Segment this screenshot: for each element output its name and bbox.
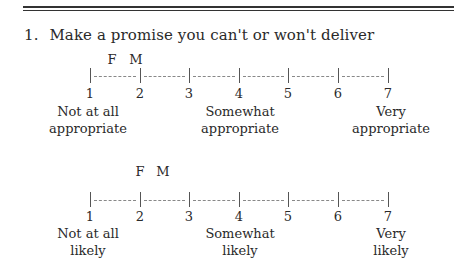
tick-1 [90,192,91,207]
point-2: 2 [136,209,144,224]
segment [193,200,235,201]
tick-6 [338,192,339,207]
segment [342,200,384,201]
anchor-mid: Somewhat likely [205,225,274,259]
tick-2 [140,192,141,207]
anchor-line: likely [373,242,408,259]
point-4: 4 [235,209,243,224]
tick-7 [388,192,389,207]
point-6: 6 [334,209,342,224]
segment [144,200,185,201]
anchor-high: Very likely [373,225,408,259]
marker-f: F [135,164,144,179]
segment [292,200,334,201]
anchor-line: likely [57,242,119,259]
tick-4 [239,192,240,207]
anchor-low: Not at all likely [57,225,119,259]
point-7: 7 [384,209,392,224]
anchor-line: Somewhat [205,225,274,242]
anchor-line: likely [205,242,274,259]
segment [243,200,284,201]
segment [94,200,136,201]
anchor-line: Not at all [57,225,119,242]
scale-likelihood: F M 1 2 3 4 5 6 7 Not at all likely Some… [0,0,474,274]
point-5: 5 [284,209,292,224]
point-3: 3 [185,209,193,224]
marker-m: M [156,164,169,179]
point-1: 1 [86,209,94,224]
anchor-line: Very [373,225,408,242]
tick-5 [288,192,289,207]
tick-3 [189,192,190,207]
